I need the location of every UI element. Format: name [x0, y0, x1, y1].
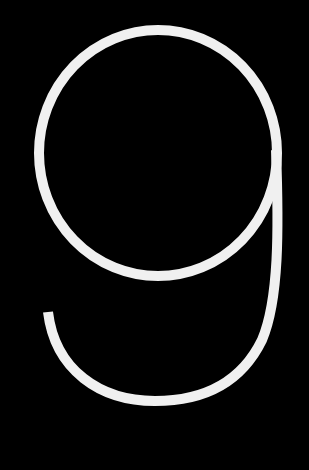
nine-icon — [0, 0, 309, 470]
